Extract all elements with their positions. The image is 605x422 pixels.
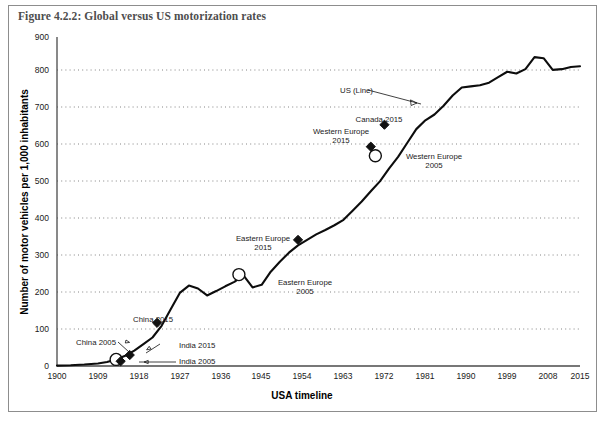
chart-svg: 900 800 700 600 500 400 300 200 100 0 19… [0, 0, 605, 422]
label-western-europe-2015-line2: 2015 [332, 136, 350, 145]
y-tick-200: 200 [35, 287, 49, 297]
label-western-europe-2005-line1: Western Europe [406, 152, 462, 161]
x-tick-1972: 1972 [375, 371, 394, 381]
y-tick-800: 800 [35, 65, 49, 75]
label-us-line: US (Line) [340, 86, 373, 95]
y-tick-100: 100 [35, 324, 49, 334]
y-tick-600: 600 [35, 139, 49, 149]
leader-arrow-india-2015 [147, 346, 151, 350]
label-eastern-europe-2005-line1: Eastern Europe [278, 278, 332, 287]
y-tick-300: 300 [35, 250, 49, 260]
x-axis-title: USA timeline [271, 390, 333, 401]
label-western-europe-2015-line1: Western Europe [313, 127, 369, 136]
x-tick-2008: 2008 [539, 371, 558, 381]
y-tick-500: 500 [35, 176, 49, 186]
leader-china-2005 [118, 342, 129, 352]
y-tick-0: 0 [44, 361, 49, 371]
label-china-2015: China 2015 [133, 315, 174, 324]
y-tick-900: 900 [35, 32, 49, 42]
motorization-line-chart: 900 800 700 600 500 400 300 200 100 0 19… [0, 0, 605, 422]
label-eastern-europe-2015-line1: Eastern Europe [236, 234, 290, 243]
leader-arrow-us-line [411, 100, 418, 106]
x-tick-1936: 1936 [212, 371, 231, 381]
label-china-2005: China 2005 [76, 338, 117, 347]
annotation-labels: China 2005 China 2015 India 2015 India 2… [76, 86, 462, 366]
x-tick-2015: 2015 [571, 371, 590, 381]
label-eastern-europe-2015-line2: 2015 [254, 243, 272, 252]
figure-page: Figure 4.2.2: Global versus US motorizat… [0, 0, 605, 422]
leader-arrow-china-2005 [125, 340, 129, 343]
x-tick-1909: 1909 [89, 371, 108, 381]
x-tick-1945: 1945 [252, 371, 271, 381]
marker-eastern-europe-2005 [233, 269, 245, 281]
y-tick-400: 400 [35, 213, 49, 223]
x-tick-1900: 1900 [48, 371, 67, 381]
label-canada-2015: Canada 2015 [356, 115, 403, 124]
gridlines [57, 70, 580, 329]
x-tick-1990: 1990 [457, 371, 476, 381]
y-tick-700: 700 [35, 102, 49, 112]
x-axis-ticks: 1900 1909 1918 1927 1936 1945 1954 1963 … [48, 371, 590, 381]
x-tick-1963: 1963 [334, 371, 353, 381]
leader-india-2015 [146, 344, 160, 353]
x-tick-1918: 1918 [130, 371, 149, 381]
x-tick-1999: 1999 [498, 371, 517, 381]
x-tick-1954: 1954 [293, 371, 312, 381]
label-eastern-europe-2005-line2: 2005 [296, 287, 314, 296]
x-tick-1981: 1981 [416, 371, 435, 381]
label-india-2005: India 2005 [179, 357, 216, 366]
x-tick-1927: 1927 [171, 371, 190, 381]
leader-us-line [368, 90, 421, 104]
label-western-europe-2005-line2: 2005 [425, 161, 443, 170]
y-axis-title: Number of motor vehicles per 1,000 inhab… [19, 89, 30, 315]
y-axis-ticks: 900 800 700 600 500 400 300 200 100 0 [35, 32, 49, 371]
label-india-2015: India 2015 [179, 341, 216, 350]
